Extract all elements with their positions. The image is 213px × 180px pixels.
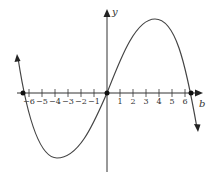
x-axis-label: b bbox=[199, 98, 205, 109]
origin-point bbox=[105, 91, 110, 96]
x-tick-label: −2 bbox=[75, 97, 87, 106]
x-tick-label: 4 bbox=[156, 97, 161, 106]
root-point-left bbox=[21, 91, 26, 96]
x-tick-label: −5 bbox=[36, 97, 48, 106]
x-tick-label: 2 bbox=[130, 97, 135, 106]
x-tick-label: 1 bbox=[117, 97, 122, 106]
curve-right-arrow-icon bbox=[194, 124, 201, 132]
root-point-b bbox=[189, 91, 194, 96]
y-axis-label: y bbox=[111, 6, 118, 17]
x-tick-label: −4 bbox=[49, 97, 61, 106]
x-tick-label: 3 bbox=[143, 97, 148, 106]
x-tick-label: −1 bbox=[88, 97, 100, 106]
x-tick-label: −3 bbox=[62, 97, 74, 106]
x-tick-label: 6 bbox=[182, 97, 187, 106]
x-tick-label: 5 bbox=[169, 97, 174, 106]
curve-left-arrow-icon bbox=[15, 54, 21, 62]
y-axis-arrow-icon bbox=[104, 9, 111, 17]
x-axis-arrow-icon bbox=[195, 90, 203, 97]
plot: −6−5−4−3−2−1123456 y b bbox=[0, 0, 213, 180]
